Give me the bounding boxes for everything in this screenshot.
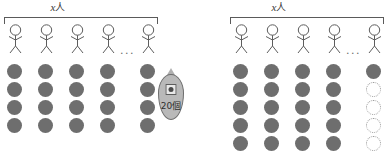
stick-figure [233, 24, 250, 54]
brace-label-unit-left: 人 [55, 2, 65, 13]
stick-figure [69, 24, 86, 54]
stick-figure [100, 24, 117, 54]
dot-column [295, 64, 311, 153]
dot-filled [295, 118, 310, 133]
dot-filled [140, 118, 155, 133]
dot-column [233, 64, 249, 153]
dot-column [264, 64, 280, 153]
dot-filled [69, 118, 84, 133]
dot-filled [140, 82, 155, 97]
dot-filled [69, 64, 84, 79]
dot-filled [100, 82, 115, 97]
stick-figure [295, 24, 312, 54]
stick-figure [140, 24, 157, 54]
dot-filled [140, 64, 155, 79]
dot-column [38, 64, 54, 136]
dot-filled [38, 64, 53, 79]
dot-filled [264, 64, 279, 79]
ellipsis-left: ... [120, 47, 135, 55]
brace-label-right: x人 [184, 1, 374, 14]
dot-filled [264, 82, 279, 97]
brace-label-unit-right: 人 [276, 2, 286, 13]
dot-column [366, 64, 382, 153]
dot-filled [38, 82, 53, 97]
dot-filled [233, 64, 248, 79]
dot-filled [326, 64, 341, 79]
stick-figure [326, 24, 343, 54]
stick-figure [38, 24, 55, 54]
marble-icon [166, 84, 177, 95]
stick-figure [264, 24, 281, 54]
brace-label-left: x人 [0, 1, 156, 14]
dot-ghost [366, 100, 381, 115]
dot-filled [326, 136, 341, 151]
dot-filled [100, 100, 115, 115]
dot-ghost [366, 82, 381, 97]
dot-ghost [366, 118, 381, 133]
dot-column [69, 64, 85, 136]
stick-figure [366, 24, 383, 54]
dot-filled [264, 100, 279, 115]
dot-filled [366, 64, 381, 79]
dot-column [326, 64, 342, 153]
dot-filled [295, 136, 310, 151]
diagram-canvas: x人 [0, 0, 386, 153]
dot-ghost [366, 136, 381, 151]
dot-filled [295, 82, 310, 97]
dot-filled [326, 82, 341, 97]
dot-filled [140, 100, 155, 115]
dot-filled [326, 118, 341, 133]
brace-line-right [230, 17, 384, 24]
dot-filled [295, 100, 310, 115]
stick-figure [7, 24, 24, 54]
ellipsis-right: ... [346, 47, 361, 55]
dot-filled [100, 118, 115, 133]
dot-filled [233, 82, 248, 97]
balloon-body: 20個 [158, 74, 184, 120]
dot-filled [326, 100, 341, 115]
balloon-label: 20個 [159, 99, 183, 112]
dot-filled [38, 100, 53, 115]
dot-filled [264, 136, 279, 151]
dot-filled [264, 118, 279, 133]
dot-filled [295, 64, 310, 79]
dot-filled [7, 118, 22, 133]
dot-filled [100, 64, 115, 79]
dot-filled [38, 118, 53, 133]
dot-filled [233, 100, 248, 115]
dot-filled [69, 100, 84, 115]
dot-filled [233, 136, 248, 151]
dot-column [140, 64, 156, 136]
dot-filled [7, 100, 22, 115]
dot-filled [7, 64, 22, 79]
dot-filled [233, 118, 248, 133]
pictogram-group-left: x人 [0, 0, 196, 153]
brace-line-left [4, 17, 158, 24]
dot-filled [7, 82, 22, 97]
pictogram-group-right: x人 [196, 0, 386, 153]
dot-column [7, 64, 23, 136]
dot-column [100, 64, 116, 136]
dot-filled [69, 82, 84, 97]
